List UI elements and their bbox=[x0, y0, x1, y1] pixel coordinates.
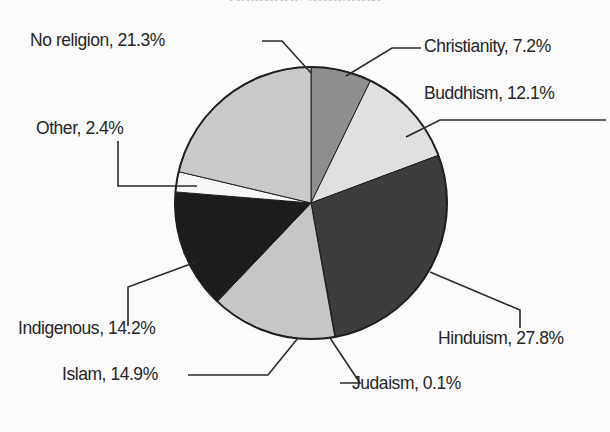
leader-line-christianity bbox=[346, 48, 421, 76]
pie-label-no-religion: No religion, 21.3% bbox=[30, 30, 165, 51]
pie-label-islam: Islam, 14.9% bbox=[62, 364, 158, 385]
pie-label-judaism: Judaism, 0.1% bbox=[352, 373, 461, 394]
pie-chart-figure: Religious affiliation No religion, 21.3%… bbox=[0, 0, 610, 432]
pie-label-christianity: Christianity, 7.2% bbox=[424, 36, 551, 57]
pie-label-hinduism: Hinduism, 27.8% bbox=[438, 328, 564, 349]
leader-line-islam bbox=[188, 338, 298, 375]
leader-line-indigenous bbox=[128, 262, 196, 326]
pie-label-indigenous: Indigenous, 14.2% bbox=[18, 318, 155, 339]
leader-line-hinduism bbox=[430, 272, 520, 328]
pie-slices-group bbox=[175, 67, 447, 339]
leader-line-buddhism bbox=[406, 120, 606, 137]
pie-label-other: Other, 2.4% bbox=[36, 118, 123, 139]
pie-label-buddhism: Buddhism, 12.1% bbox=[424, 83, 554, 104]
